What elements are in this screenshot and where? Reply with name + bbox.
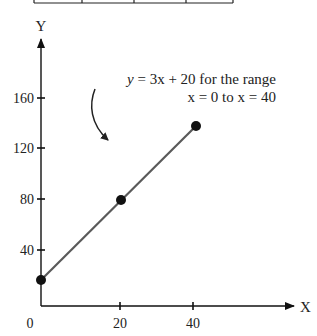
- chart-canvas: Y X 160 120 80 40 0 20 40 y = 3x + 20 fo…: [0, 0, 317, 336]
- annotation-line-1: y = 3x + 20 for the range: [125, 71, 276, 87]
- curved-arrow-icon: [92, 89, 108, 140]
- y-axis-label: Y: [36, 18, 47, 34]
- x-tick-label: 0: [27, 316, 34, 331]
- x-axis-label: X: [300, 299, 311, 315]
- x-tick-label: 20: [113, 316, 127, 331]
- annotation-line-2: x = 0 to x = 40: [187, 89, 276, 105]
- y-tick-label: 40: [20, 243, 34, 258]
- y-ticks: 160 120 80 40: [13, 91, 45, 258]
- x-tick-label: 40: [186, 316, 200, 331]
- y-tick-label: 80: [20, 192, 34, 207]
- data-point: [116, 195, 126, 205]
- y-tick-label: 120: [13, 141, 34, 156]
- data-point: [36, 275, 46, 285]
- table-remnant: [34, 0, 233, 3]
- y-tick-label: 160: [13, 91, 34, 106]
- data-point: [191, 121, 201, 131]
